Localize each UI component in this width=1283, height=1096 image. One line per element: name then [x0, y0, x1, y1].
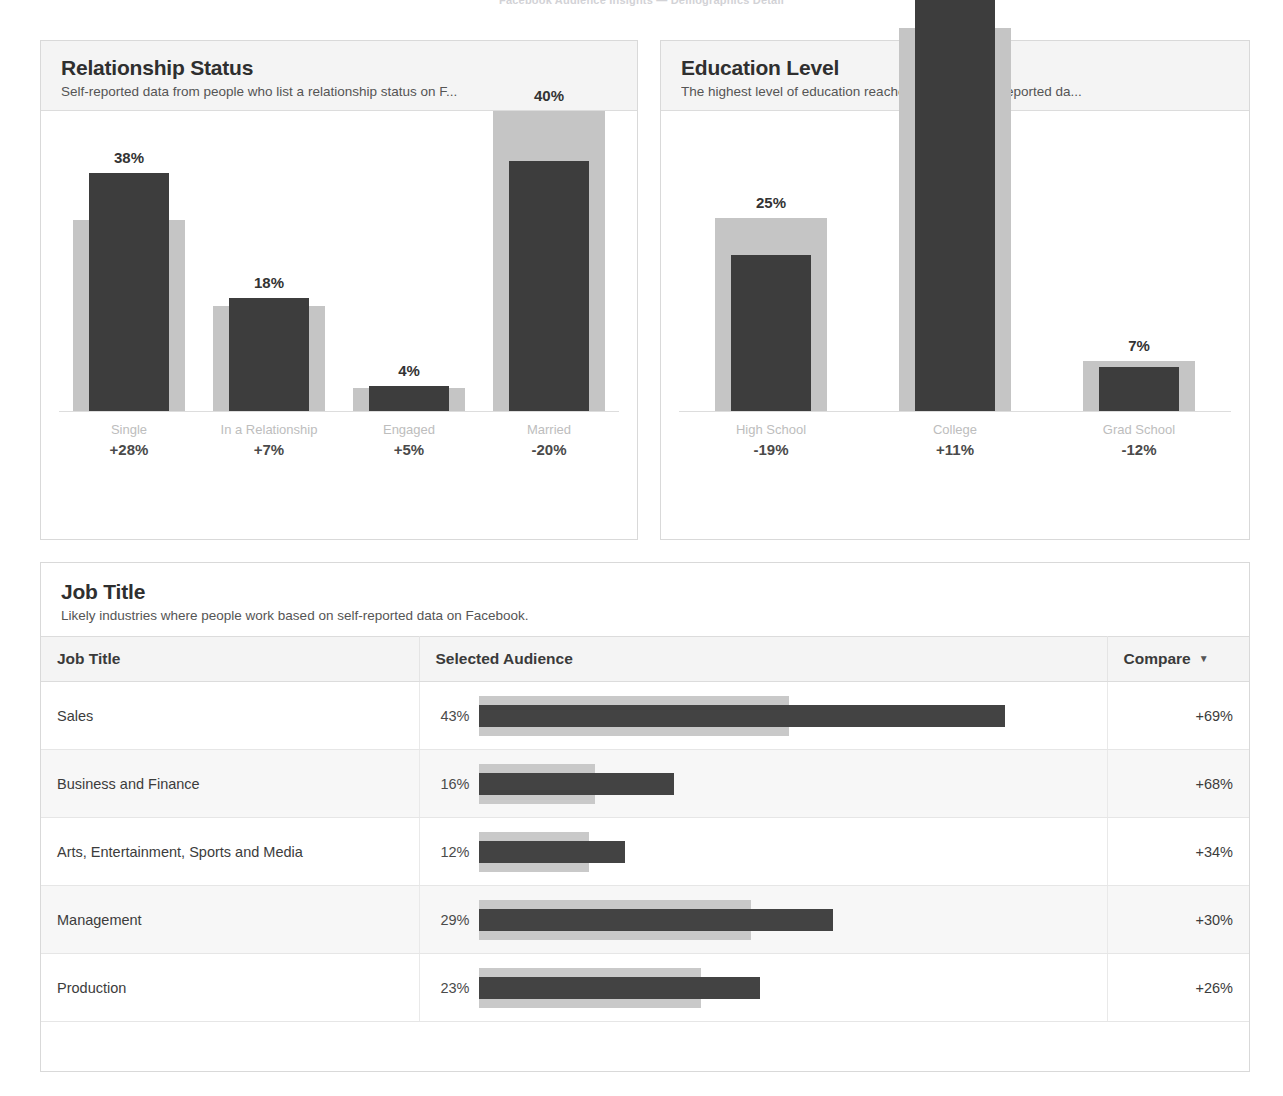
- cell-selected-audience: 29%: [419, 886, 1107, 954]
- table-row[interactable]: Business and Finance16%+68%: [41, 750, 1249, 818]
- bar-value-label: 25%: [715, 195, 827, 210]
- panel-education-level: Education Level The highest level of edu…: [660, 40, 1250, 540]
- audience-bar-row: 43%: [436, 692, 1091, 740]
- audience-bar-row: 23%: [436, 964, 1091, 1012]
- education-bar-group[interactable]: 68%: [863, 111, 1047, 411]
- chevron-down-icon: ▼: [1199, 653, 1209, 664]
- table-row[interactable]: Management29%+30%: [41, 886, 1249, 954]
- column-header-compare[interactable]: Compare▼: [1107, 637, 1249, 682]
- compare-value-label: +28%: [59, 439, 199, 460]
- education-level-chart: 25%68%7% High School-19%College+11%Grad …: [661, 111, 1249, 460]
- category-label: Married: [479, 421, 619, 438]
- bar-track: [479, 896, 1091, 944]
- cell-job-title: Sales: [41, 682, 419, 750]
- audience-bar: [731, 255, 811, 411]
- column-header-compare-label: Compare: [1124, 650, 1191, 667]
- audience-percent-label: 23%: [436, 980, 470, 996]
- panel-relationship-title: Relationship Status: [61, 55, 617, 80]
- category-label: High School: [679, 421, 863, 438]
- bar-pair: 4%: [353, 111, 465, 411]
- axis-label-group: Engaged+5%: [339, 421, 479, 460]
- panel-jobtitle-subtitle: Likely industries where people work base…: [61, 607, 1229, 624]
- column-header-job-title[interactable]: Job Title: [41, 637, 419, 682]
- audience-percent-label: 12%: [436, 844, 470, 860]
- audience-percent-label: 29%: [436, 912, 470, 928]
- cell-selected-audience: 16%: [419, 750, 1107, 818]
- education-plot-area: 25%68%7%: [679, 111, 1231, 412]
- cell-job-title: Arts, Entertainment, Sports and Media: [41, 818, 419, 886]
- panel-jobtitle-header: Job Title Likely industries where people…: [41, 563, 1249, 636]
- relationship-plot-area: 38%18%4%40%: [59, 111, 619, 412]
- audience-bar: [1099, 367, 1179, 411]
- bar-pair: 40%: [493, 111, 605, 411]
- compare-value-label: +5%: [339, 439, 479, 460]
- audience-bar: [479, 977, 761, 999]
- audience-bar: [915, 0, 995, 411]
- bar-track: [479, 828, 1091, 876]
- job-title-table-body: Sales43%+69%Business and Finance16%+68%A…: [41, 682, 1249, 1022]
- category-label: Single: [59, 421, 199, 438]
- compare-value-label: -19%: [679, 439, 863, 460]
- bar-value-label: 18%: [213, 275, 325, 290]
- compare-value-label: +7%: [199, 439, 339, 460]
- audience-bar-row: 12%: [436, 828, 1091, 876]
- axis-label-group: Married-20%: [479, 421, 619, 460]
- bar-track: [479, 964, 1091, 1012]
- job-title-table: Job Title Selected Audience Compare▼ Sal…: [41, 636, 1249, 1022]
- audience-bar: [479, 909, 834, 931]
- panel-jobtitle-title: Job Title: [61, 579, 1229, 604]
- category-label: In a Relationship: [199, 421, 339, 438]
- education-bar-group[interactable]: 25%: [679, 111, 863, 411]
- axis-label-group: Grad School-12%: [1047, 421, 1231, 460]
- column-header-selected-audience[interactable]: Selected Audience: [419, 637, 1107, 682]
- relationship-status-chart: 38%18%4%40% Single+28%In a Relationship+…: [41, 111, 637, 460]
- axis-label-group: College+11%: [863, 421, 1047, 460]
- table-row[interactable]: Arts, Entertainment, Sports and Media12%…: [41, 818, 1249, 886]
- job-title-table-head: Job Title Selected Audience Compare▼: [41, 637, 1249, 682]
- audience-percent-label: 16%: [436, 776, 470, 792]
- cell-compare: +34%: [1107, 818, 1249, 886]
- cell-compare: +30%: [1107, 886, 1249, 954]
- audience-bar: [229, 298, 309, 411]
- audience-bar: [479, 773, 675, 795]
- bar-pair: 25%: [715, 111, 827, 411]
- education-bar-group[interactable]: 7%: [1047, 111, 1231, 411]
- table-row[interactable]: Sales43%+69%: [41, 682, 1249, 750]
- bar-pair: 7%: [1083, 111, 1195, 411]
- relationship-bar-group[interactable]: 18%: [199, 111, 339, 411]
- cell-selected-audience: 12%: [419, 818, 1107, 886]
- bar-track: [479, 760, 1091, 808]
- bar-value-label: 7%: [1083, 338, 1195, 353]
- audience-bar-row: 29%: [436, 896, 1091, 944]
- education-axis-labels: High School-19%College+11%Grad School-12…: [679, 412, 1231, 460]
- category-label: College: [863, 421, 1047, 438]
- axis-label-group: Single+28%: [59, 421, 199, 460]
- audience-bar: [369, 386, 449, 411]
- category-label: Grad School: [1047, 421, 1231, 438]
- bar-value-label: 4%: [353, 363, 465, 378]
- audience-percent-label: 43%: [436, 708, 470, 724]
- audience-bar-row: 16%: [436, 760, 1091, 808]
- panel-job-title: Job Title Likely industries where people…: [40, 562, 1250, 1072]
- cell-compare: +69%: [1107, 682, 1249, 750]
- cell-compare: +26%: [1107, 954, 1249, 1022]
- table-row[interactable]: Production23%+26%: [41, 954, 1249, 1022]
- relationship-bar-group[interactable]: 4%: [339, 111, 479, 411]
- bar-track: [479, 692, 1091, 740]
- bar-pair: 68%: [899, 111, 1011, 411]
- page-top-header-text: Facebook Audience Insights — Demographic…: [499, 0, 784, 6]
- axis-label-group: High School-19%: [679, 421, 863, 460]
- category-label: Engaged: [339, 421, 479, 438]
- bar-pair: 38%: [73, 111, 185, 411]
- relationship-bar-group[interactable]: 38%: [59, 111, 199, 411]
- compare-value-label: +11%: [863, 439, 1047, 460]
- bar-value-label: 40%: [493, 88, 605, 103]
- cell-job-title: Production: [41, 954, 419, 1022]
- relationship-axis-labels: Single+28%In a Relationship+7%Engaged+5%…: [59, 412, 619, 460]
- cell-job-title: Management: [41, 886, 419, 954]
- panel-relationship-status: Relationship Status Self-reported data f…: [40, 40, 638, 540]
- table-header-row: Job Title Selected Audience Compare▼: [41, 637, 1249, 682]
- axis-label-group: In a Relationship+7%: [199, 421, 339, 460]
- relationship-bar-group[interactable]: 40%: [479, 111, 619, 411]
- compare-value-label: -20%: [479, 439, 619, 460]
